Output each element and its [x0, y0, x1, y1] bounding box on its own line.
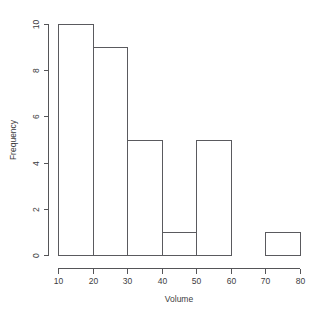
chart-canvas: 0246810 1020304050607080 Volume Frequenc… [0, 0, 331, 319]
x-tick-label: 70 [261, 276, 271, 286]
x-tick-label: 30 [123, 276, 133, 286]
histogram-bar [266, 233, 301, 256]
x-tick-label: 60 [227, 276, 237, 286]
y-axis-ticks: 0246810 [31, 20, 48, 258]
x-axis-ticks: 1020304050607080 [54, 269, 306, 287]
histogram-bar [59, 25, 94, 256]
x-tick-label: 50 [192, 276, 202, 286]
x-tick-label: 40 [158, 276, 168, 286]
y-axis-title: Frequency [8, 119, 18, 160]
x-tick-label: 80 [296, 276, 306, 286]
histogram-figure: 0246810 1020304050607080 Volume Frequenc… [0, 0, 331, 319]
y-axis: 0246810 [31, 20, 48, 258]
x-axis-title: Volume [165, 294, 194, 304]
y-tick-label: 10 [31, 20, 41, 30]
y-tick-label: 6 [31, 114, 41, 119]
histogram-bar [128, 141, 163, 256]
y-tick-label: 2 [31, 207, 41, 212]
histogram-bar [197, 141, 232, 256]
y-tick-label: 0 [31, 253, 41, 258]
x-tick-label: 10 [54, 276, 64, 286]
y-tick-label: 4 [31, 161, 41, 166]
x-axis: 1020304050607080 [54, 269, 306, 287]
y-tick-label: 8 [31, 68, 41, 73]
bars-group [59, 25, 301, 256]
histogram-bar [163, 233, 197, 256]
x-tick-label: 20 [89, 276, 99, 286]
histogram-bar [94, 48, 128, 256]
